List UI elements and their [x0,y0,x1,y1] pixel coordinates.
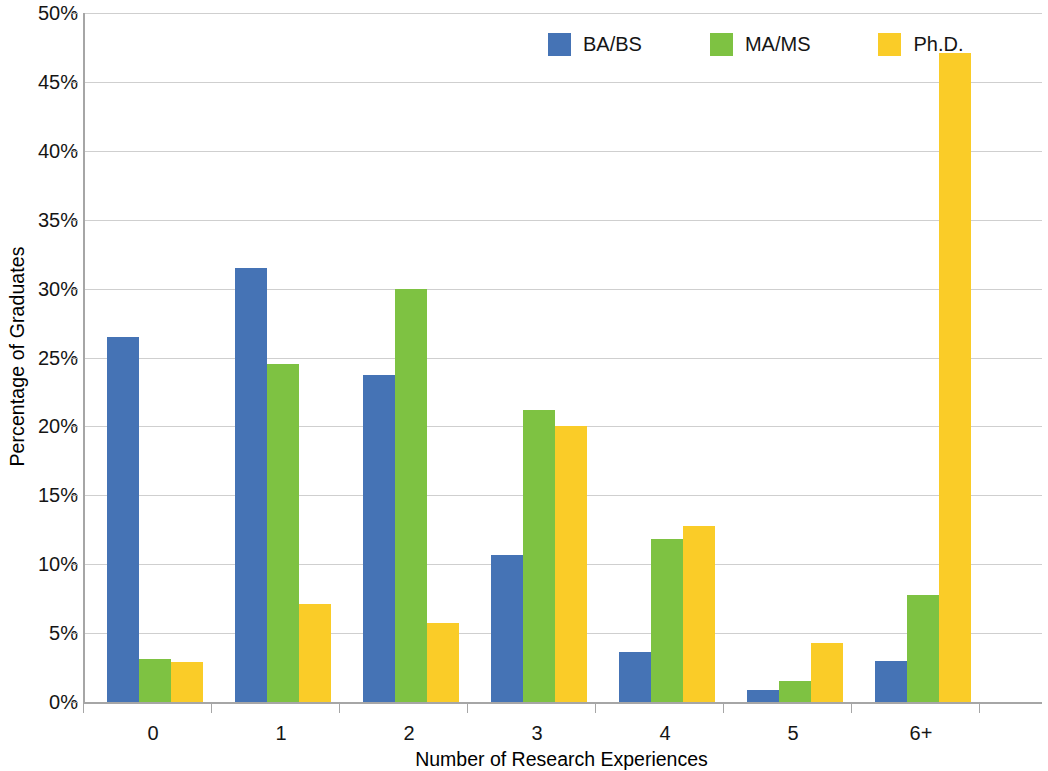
y-axis-tick-label: 15% [8,484,78,507]
legend: BA/BSMA/MSPh.D. [548,33,964,56]
x-axis-tick-label: 5 [733,722,853,745]
y-axis-tick-mark [71,495,78,496]
y-axis-ticks: 0%5%10%15%20%25%30%35%40%45%50% [0,13,78,702]
x-axis-tick-label: 2 [349,722,469,745]
legend-label: BA/BS [583,33,642,56]
bars-layer [85,13,1042,702]
bar-PhD-6plus [939,53,971,702]
bar-BABS-5 [747,690,779,702]
legend-swatch-icon [878,33,901,56]
bar-BABS-6plus [875,661,907,702]
legend-swatch-icon [710,33,733,56]
legend-item[interactable]: MA/MS [710,33,811,56]
y-axis-tick-mark [71,220,78,221]
y-axis-tick-mark [71,82,78,83]
bar-PhD-2 [427,623,459,702]
x-axis-title: Number of Research Experiences [83,748,1040,771]
bar-PhD-5 [811,643,843,702]
bar-BABS-2 [363,375,395,702]
y-axis-tick-label: 20% [8,415,78,438]
legend-label: MA/MS [745,33,811,56]
x-axis-tick-mark [595,704,596,713]
y-axis-tick-label: 45% [8,70,78,93]
x-axis-tick-label: 1 [221,722,341,745]
y-axis-tick-label: 50% [8,2,78,25]
x-axis-tick-mark [467,704,468,713]
x-axis-tick-mark [339,704,340,713]
y-axis-tick-label: 40% [8,139,78,162]
y-axis-tick-label: 5% [8,622,78,645]
x-axis-tick-mark [979,704,980,713]
bar-BABS-4 [619,652,651,702]
y-axis-tick-label: 10% [8,553,78,576]
legend-swatch-icon [548,33,571,56]
bar-MAMS-1 [267,364,299,702]
x-axis-tick-mark [851,704,852,713]
y-axis-tick-label: 30% [8,277,78,300]
bar-PhD-4 [683,526,715,702]
y-axis-tick-mark [71,13,78,14]
y-axis-tick-label: 35% [8,208,78,231]
gridline [85,702,1042,703]
bar-PhD-0 [171,662,203,702]
bar-MAMS-2 [395,289,427,702]
x-axis-tick-label: 6+ [861,722,981,745]
bar-MAMS-5 [779,681,811,702]
bar-MAMS-6plus [907,595,939,702]
bar-MAMS-4 [651,539,683,702]
legend-label: Ph.D. [913,33,963,56]
x-axis-tick-mark [723,704,724,713]
bar-PhD-1 [299,604,331,702]
legend-item[interactable]: BA/BS [548,33,642,56]
y-axis-tick-label: 25% [8,346,78,369]
y-axis-tick-mark [71,358,78,359]
y-axis-tick-mark [71,151,78,152]
y-axis-tick-label: 0% [8,691,78,714]
bar-BABS-1 [235,268,267,702]
y-axis-tick-mark [71,564,78,565]
bar-BABS-0 [107,337,139,702]
bar-PhD-3 [555,426,587,702]
plot-area [83,13,1042,704]
y-axis-tick-mark [71,702,78,703]
y-axis-tick-mark [71,633,78,634]
x-axis-tick-mark [83,704,84,713]
x-axis-tick-label: 4 [605,722,725,745]
x-axis-tick-label: 0 [93,722,213,745]
x-axis-tick-label: 3 [477,722,597,745]
legend-item[interactable]: Ph.D. [878,33,963,56]
bar-BABS-3 [491,555,523,702]
x-axis-tick-mark [211,704,212,713]
y-axis-tick-mark [71,426,78,427]
x-axis-ticks [83,704,1040,718]
bar-MAMS-3 [523,410,555,702]
y-axis-tick-mark [71,289,78,290]
bar-MAMS-0 [139,659,171,702]
